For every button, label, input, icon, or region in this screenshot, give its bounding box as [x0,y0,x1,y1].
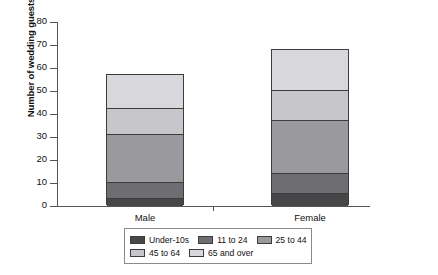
bar-female [271,49,349,205]
bar-segment [107,109,183,134]
legend-swatch-icon [257,236,272,244]
legend-item: 11 to 24 [198,235,247,245]
y-axis-tick-label: 20 [17,153,47,164]
y-axis-tick: 20 [50,160,57,161]
legend-row-2: 45 to 6465 and over [130,246,306,259]
bar-segment [272,91,348,121]
legend-swatch-icon [189,249,204,257]
y-axis-tick: 10 [50,183,57,184]
y-axis-tick-label: 0 [17,199,47,210]
y-axis-tick-label: 70 [17,38,47,49]
legend-item: 65 and over [189,248,253,258]
bar-male [106,74,184,205]
bar-segment [107,75,183,110]
y-axis-tick-label: 80 [17,15,47,26]
y-axis-line [57,22,58,207]
legend-swatch-icon [198,236,213,244]
y-axis-tick: 30 [50,137,57,138]
y-axis-tick: 70 [50,45,57,46]
y-axis-tick: 50 [50,91,57,92]
legend-label: Under-10s [149,235,189,245]
chart-legend: Under-10s11 to 2425 to 44 45 to 6465 and… [124,228,312,264]
bar-segment [107,135,183,183]
stacked-bar-chart: Number of wedding guests 807060504030201… [0,0,438,275]
legend-label: 65 and over [208,248,253,258]
legend-row-1: Under-10s11 to 2425 to 44 [130,233,306,246]
legend-item: 45 to 64 [130,248,180,258]
legend-item: Under-10s [130,235,189,245]
y-axis-tick-label: 30 [17,130,47,141]
y-axis-tick-label: 50 [17,84,47,95]
bar-segment [107,183,183,199]
x-tick-label-female: Female [250,212,370,223]
plot-area: 80706050403020100 Male Female [57,22,370,206]
legend-label: 11 to 24 [217,235,247,245]
y-axis-tick: 80 [50,22,57,23]
legend-swatch-icon [130,249,145,257]
bar-segment [272,50,348,91]
bar-segment [272,121,348,174]
y-axis-tick-label: 60 [17,61,47,72]
legend-label: 45 to 64 [149,248,180,258]
legend-item: 25 to 44 [257,235,307,245]
y-axis-tick: 40 [50,114,57,115]
y-axis-tick-label: 40 [17,107,47,118]
y-axis-tick: 60 [50,68,57,69]
bar-segment [272,174,348,195]
bar-segment [107,199,183,206]
y-axis-tick-label: 10 [17,176,47,187]
x-tick-label-male: Male [85,212,205,223]
legend-label: 25 to 44 [276,235,307,245]
legend-swatch-icon [130,236,145,244]
bar-segment [272,194,348,206]
x-axis-center-tick [213,206,214,211]
y-axis-tick: 0 [50,206,57,207]
